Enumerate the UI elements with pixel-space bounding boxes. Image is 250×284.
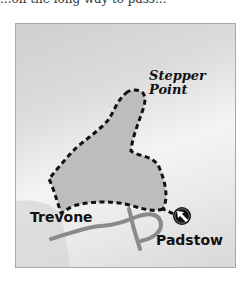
caption-fragment: ...on the long way to pass... [0,0,250,6]
stepper-point-label: Stepper Point [149,69,206,97]
headland-landmass [49,90,166,213]
padstow-label: Padstow [156,232,223,248]
start-arrow-icon [173,207,191,225]
stepper-point-line2: Point [149,83,206,97]
trevone-label: Trevone [30,209,93,225]
stepper-point-line1: Stepper [149,69,206,83]
walk-map: Stepper Point Trevone Padstow [15,23,236,268]
